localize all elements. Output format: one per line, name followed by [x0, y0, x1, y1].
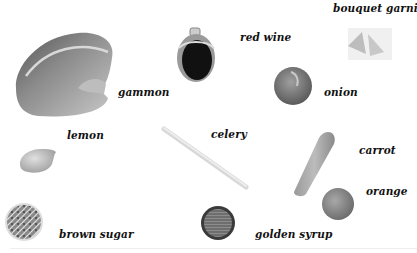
label-brown-sugar: brown sugar — [59, 228, 134, 240]
label-carrot: carrot — [359, 144, 396, 156]
label-bouquet-garni: bouquet garni — [333, 2, 417, 14]
red-wine-image — [176, 26, 218, 86]
orange-image — [321, 187, 355, 221]
ingredients-illustration: gammon red wine bouquet garni onion lemo… — [0, 0, 417, 253]
label-celery: celery — [211, 128, 247, 140]
bouquet-garni-image — [344, 26, 396, 62]
label-onion: onion — [324, 86, 358, 98]
golden-syrup-image — [200, 205, 236, 241]
label-gammon: gammon — [118, 86, 170, 98]
label-red-wine: red wine — [240, 31, 291, 43]
lemon-image — [18, 146, 58, 176]
label-orange: orange — [366, 185, 408, 197]
gammon-image — [8, 28, 118, 120]
label-golden-syrup: golden syrup — [255, 228, 332, 240]
divider — [10, 248, 417, 249]
onion-image — [273, 66, 313, 106]
label-lemon: lemon — [67, 129, 104, 141]
brown-sugar-image — [4, 202, 44, 242]
